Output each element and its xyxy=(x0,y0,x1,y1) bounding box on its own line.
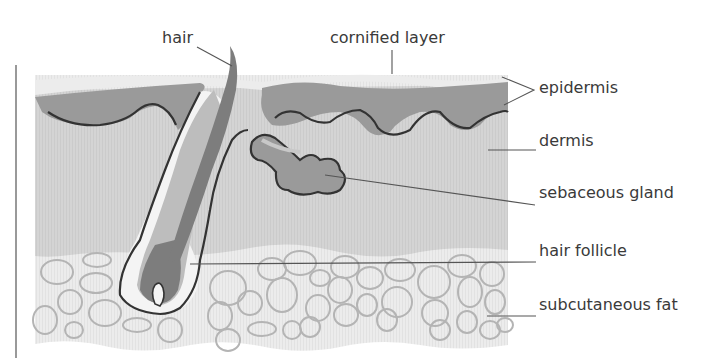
label-sebaceous-gland: sebaceous gland xyxy=(539,185,674,201)
label-cornified-layer: cornified layer xyxy=(330,30,445,46)
label-dermis: dermis xyxy=(539,133,594,149)
label-epidermis: epidermis xyxy=(539,80,618,96)
label-subcutaneous-fat: subcutaneous fat xyxy=(539,297,678,313)
dermal-papilla xyxy=(153,283,165,306)
label-hair: hair xyxy=(162,30,193,46)
label-hair-follicle: hair follicle xyxy=(539,243,627,259)
hair-leader xyxy=(197,47,232,66)
